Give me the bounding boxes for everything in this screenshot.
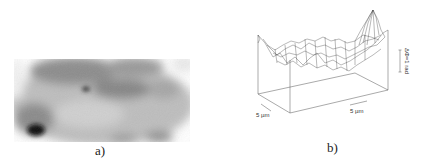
panel-a-image bbox=[14, 59, 190, 142]
z-scale-label: ΔΦ=1 rad bbox=[404, 48, 410, 74]
panel-b-caption: b) bbox=[327, 140, 338, 156]
panel-a-caption: a) bbox=[95, 143, 105, 159]
x-scale-bar bbox=[350, 101, 367, 105]
panel-b-plot bbox=[255, 5, 425, 125]
y-scale-label: 5 µm bbox=[256, 112, 269, 118]
grayscale-phase-image bbox=[14, 59, 190, 142]
y-scale-bar bbox=[261, 104, 271, 111]
x-scale-label: 5 µm bbox=[350, 108, 363, 114]
wireframe-surface bbox=[255, 5, 425, 125]
